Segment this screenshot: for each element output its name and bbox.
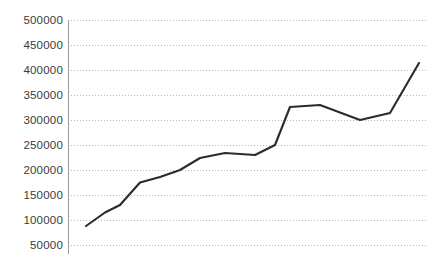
y-axis-tick-label: 150000 — [23, 189, 63, 201]
series-line-path — [86, 63, 419, 226]
y-axis-tick-label: 50000 — [30, 239, 63, 251]
y-axis-tick-label: 400000 — [23, 64, 63, 76]
y-axis-tick-label: 200000 — [23, 164, 63, 176]
data-series-group — [86, 63, 419, 226]
y-axis-tick-label: 500000 — [23, 14, 63, 26]
y-axis-tick-label: 350000 — [23, 89, 63, 101]
y-axis-tick-label: 250000 — [23, 139, 63, 151]
chart-canvas: 5000004500004000003500003000002500002000… — [0, 0, 431, 269]
y-axis-labels-group: 5000004500004000003500003000002500002000… — [23, 14, 63, 251]
y-axis-tick-label: 300000 — [23, 114, 63, 126]
gridlines-group — [68, 21, 428, 246]
y-axis-tick-label: 450000 — [23, 39, 63, 51]
line-chart: 5000004500004000003500003000002500002000… — [0, 0, 431, 269]
y-axis-tick-label: 100000 — [23, 214, 63, 226]
